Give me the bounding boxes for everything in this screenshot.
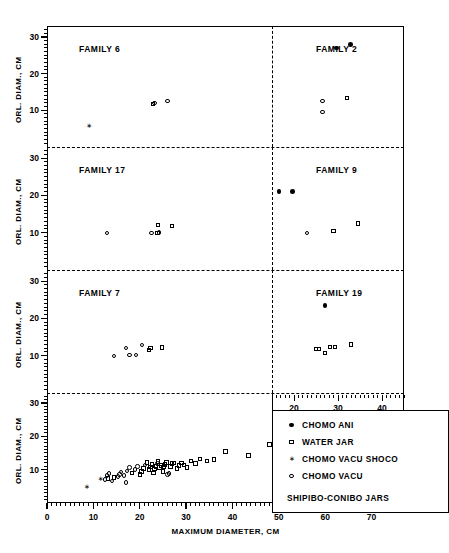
y-tick-minor [44,47,47,48]
panel-label-family-9: FAMILY 9 [316,165,357,175]
y-tick-minor [44,366,47,367]
data-point-water-jar [160,345,164,349]
legend-entry-chomo-ani: CHOMO ANI [287,420,354,430]
data-point-chomo-ani [348,42,353,47]
y-tick-major [41,402,47,403]
y-tick-minor [44,69,47,70]
y-tick-minor [44,442,47,443]
data-point-water-jar [151,471,155,475]
data-point-chomo-vacu-shoco: ∗ [86,124,91,129]
y-tick-minor [44,479,47,480]
y-tick-minor [44,95,47,96]
x-tick-minor [130,503,131,506]
y-axis-title: ORL. DIAM., CM [14,418,23,484]
y-tick-minor [44,466,47,467]
y-tick-minor [44,176,47,177]
y-tick-minor [44,262,47,263]
data-point-water-jar [331,229,335,233]
y-tick-minor [44,44,47,45]
y-tick-minor [44,446,47,447]
data-point-chomo-vacu-shoco: ∗ [84,485,89,490]
y-tick-minor [44,310,47,311]
x-tick-major [185,503,186,509]
y-tick-minor [44,499,47,500]
y-tick-minor [44,80,47,81]
y-tick-minor [44,150,47,151]
y-tick-minor [44,165,47,166]
data-point-chomo-ani [277,189,282,194]
x-tick-label: 70 [357,512,387,522]
data-point-water-jar [148,346,152,350]
x-tick-minor [195,503,196,506]
x-tick-minor [158,503,159,506]
data-point-chomo-vacu [127,465,131,469]
y-axis-title: ORL. DIAM., CM [14,178,23,244]
x-tick-minor [241,503,242,506]
y-tick-minor [44,113,47,114]
y-tick-minor [44,462,47,463]
y-tick-minor [44,426,47,427]
x-tick-minor [65,503,66,506]
y-tick-minor [44,385,47,386]
x-tick-minor [236,503,237,506]
x-tick-minor [74,503,75,506]
y-axis-title: ORL. DIAM., CM [14,301,23,367]
data-point-chomo-vacu [167,471,171,475]
y-tick-minor [44,476,47,477]
data-point-water-jar [246,453,250,457]
y-tick-minor [44,51,47,52]
y-tick-minor [44,161,47,162]
y-tick-minor [44,139,47,140]
open-square-icon [287,440,296,444]
y-tick-minor [44,143,47,144]
x-tick-minor [246,503,247,506]
y-tick-label: 30 [17,276,39,286]
y-tick-minor [44,307,47,308]
x-tick-minor [250,503,251,506]
y-tick-minor [44,314,47,315]
legend-label: CHOMO VACU [302,471,363,481]
y-tick-minor [44,340,47,341]
column-divider-1 [272,147,273,270]
y-tick-major [41,318,47,319]
y-tick-major [41,158,47,159]
y-tick-minor [44,121,47,122]
data-point-water-jar [349,342,353,346]
star-icon: ∗ [287,457,296,462]
data-point-water-jar [205,459,209,463]
x-tick-label: 10 [78,512,108,522]
y-tick-minor [44,243,47,244]
data-point-chomo-vacu [149,231,153,235]
x-tick-major [232,503,233,509]
open-circle-glyph [289,474,293,478]
y-tick-minor [44,199,47,200]
y-tick-minor [44,377,47,378]
x-tick-minor [116,503,117,506]
y-tick-minor [44,191,47,192]
y-tick-major [41,355,47,356]
x-tick-label: 60 [310,512,340,522]
x-tick-minor [148,503,149,506]
x-tick-minor [70,503,71,506]
data-point-water-jar [172,461,176,465]
legend-box: CHOMO ANIWATER JAR∗CHOMO VACU SHOCOCHOMO… [272,410,449,513]
y-tick-minor [44,399,47,400]
x-tick-minor [209,503,210,506]
y-tick-minor [44,62,47,63]
x-tick-minor [176,503,177,506]
x-tick-minor [204,503,205,506]
x-tick-minor [60,503,61,506]
filled-circle-glyph [289,423,294,428]
y-tick-label: 30 [17,153,39,163]
legend-entry-chomo-vacu: CHOMO VACU [287,471,363,481]
y-tick-minor [44,299,47,300]
y-tick-minor [44,396,47,397]
y-tick-major [41,232,47,233]
y-tick-minor [44,288,47,289]
x-tick-major [93,503,94,509]
legend-label: CHOMO VACU SHOCO [302,454,398,464]
x-tick-minor [88,503,89,506]
x-tick-minor [172,503,173,506]
x-tick-minor [79,503,80,506]
y-tick-minor [44,135,47,136]
